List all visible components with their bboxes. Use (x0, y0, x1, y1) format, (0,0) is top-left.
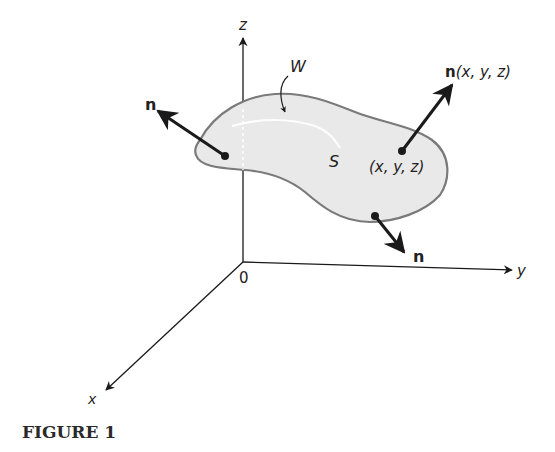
surface-label: S (329, 152, 339, 171)
point-label: (x, y, z) (369, 158, 424, 176)
normal-symbol: n (445, 63, 456, 81)
point-xyz (398, 147, 406, 155)
x-axis (106, 262, 243, 390)
normal-args: (x, y, z) (456, 63, 511, 81)
y-axis-label: y (516, 262, 527, 280)
region-label: W (290, 57, 307, 76)
point-bottom (371, 212, 379, 220)
origin-label: 0 (239, 269, 249, 287)
surface-normals-diagram: z y x 0 W S (x, y, z) n n n(x, y, z) FIG… (0, 0, 555, 452)
normal-label-left: n (145, 95, 156, 114)
point-left (221, 152, 229, 160)
figure-caption: FIGURE 1 (22, 422, 116, 442)
normal-vector-bottom (375, 216, 404, 252)
x-axis-label: x (87, 391, 97, 407)
z-axis-label: z (238, 16, 248, 34)
y-axis (243, 262, 512, 270)
normal-label-bottom: n (413, 247, 424, 266)
normal-label-point: n(x, y, z) (445, 63, 511, 81)
figure-canvas: z y x 0 W S (x, y, z) n n n(x, y, z) FIG… (0, 0, 555, 452)
